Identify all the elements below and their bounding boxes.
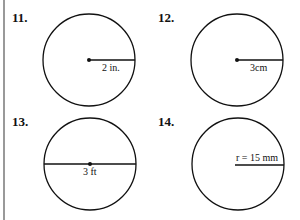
problem-number-13: 13.	[12, 114, 28, 130]
circle-figures	[0, 0, 300, 220]
circle-14	[192, 118, 284, 210]
label-14: r = 15 mm	[236, 152, 278, 163]
label-11: 2 in.	[102, 62, 120, 73]
center-dot-11	[87, 58, 91, 62]
label-13: 3 ft	[83, 166, 97, 177]
center-dot-12	[235, 58, 239, 62]
label-12: 3cm	[250, 62, 267, 73]
problem-number-14: 14.	[158, 114, 174, 130]
problem-number-11: 11.	[12, 10, 28, 26]
problem-number-12: 12.	[158, 10, 174, 26]
